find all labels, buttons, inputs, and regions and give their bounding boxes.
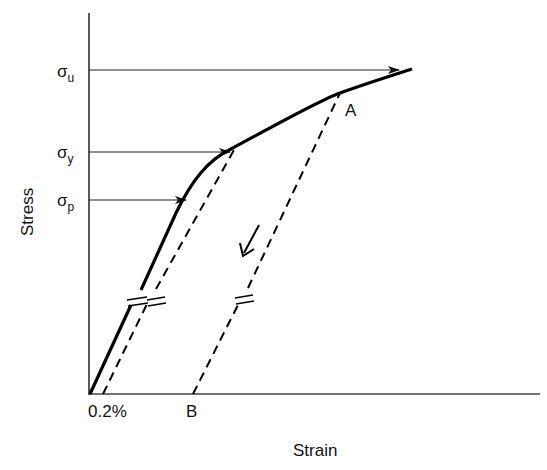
- stress-strain-diagram: σu σy σp A B 0.2% Strain Stress: [0, 0, 547, 470]
- sigma-p-label: σp: [57, 191, 75, 214]
- point-a-label: A: [345, 101, 357, 120]
- offset-label: 0.2%: [88, 402, 127, 421]
- offset-line-upper: [156, 150, 234, 289]
- sigma-u-label: σu: [57, 62, 74, 85]
- stress-strain-curve-upper: [141, 69, 412, 290]
- unloading-line-upper: [248, 93, 340, 288]
- break-mark: [235, 295, 254, 304]
- point-b-label: B: [186, 402, 197, 421]
- sigma-y-label: σy: [57, 143, 74, 166]
- unloading-direction-arrow: [244, 225, 259, 253]
- unloading-line-lower: [193, 301, 240, 394]
- break-mark: [147, 297, 166, 306]
- y-axis-title: Stress: [18, 188, 37, 236]
- x-axis-title: Strain: [293, 441, 337, 460]
